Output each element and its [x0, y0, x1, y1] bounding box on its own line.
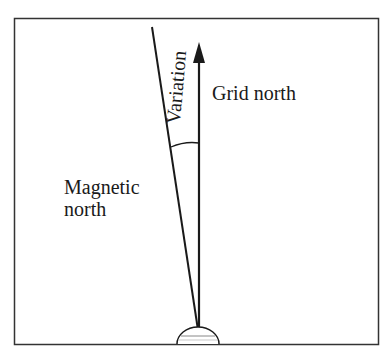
magnetic-north-label: Magnetic north — [64, 176, 140, 220]
magnetic-north-label-line2: north — [64, 198, 140, 220]
grid-north-label: Grid north — [212, 82, 296, 104]
diagram-canvas: Variation Grid north Magnetic north — [0, 0, 387, 355]
diagram-svg — [0, 0, 387, 355]
magnetic-north-label-line1: Magnetic — [64, 176, 140, 198]
